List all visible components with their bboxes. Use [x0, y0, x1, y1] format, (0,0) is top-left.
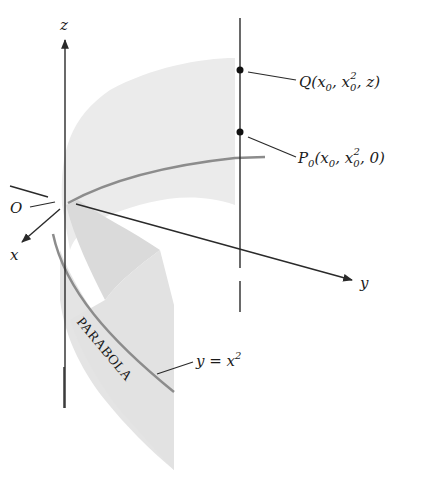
point-P0: [237, 129, 244, 136]
point-Q: [237, 67, 244, 74]
parabolic-cylinder-diagram: z y x O Q(x0, x02, z) P0(x0, x02, 0) y =…: [0, 0, 428, 496]
x-axis-label: x: [10, 246, 19, 264]
x-axis-back: [10, 186, 48, 197]
leader-Q: [248, 72, 296, 80]
point-Q-label: Q(x0, x02, z): [299, 70, 380, 93]
z-axis-label: z: [59, 16, 68, 34]
point-P0-label: P0(x0, x02, 0): [297, 146, 385, 169]
leader-P0: [248, 137, 296, 157]
y-axis-label: y: [359, 274, 369, 292]
curve-equation-label: y = x2: [195, 350, 241, 370]
leader-O: [30, 202, 55, 207]
origin-label: O: [10, 199, 22, 217]
